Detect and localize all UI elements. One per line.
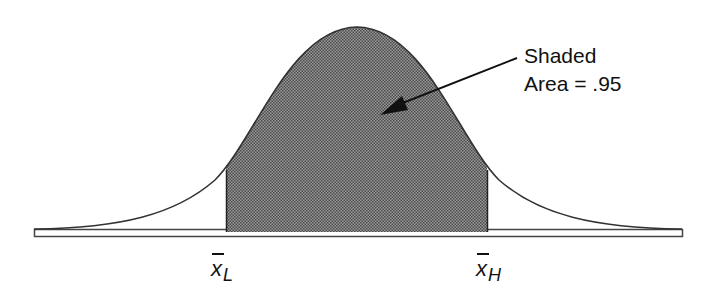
lower-subscript: L: [223, 265, 233, 285]
upper-subscript: H: [488, 265, 501, 285]
lower-bound-label: xL: [211, 256, 232, 282]
upper-symbol: x: [476, 256, 487, 281]
annotation-line1: Shaded: [524, 44, 596, 68]
lower-symbol: x: [211, 256, 222, 281]
xbar-icon: [477, 253, 489, 255]
upper-bound-label: xH: [476, 256, 500, 282]
normal-curve-diagram: [0, 0, 715, 296]
xbar-icon: [212, 253, 224, 255]
annotation-line2: Area = .95: [524, 72, 621, 96]
